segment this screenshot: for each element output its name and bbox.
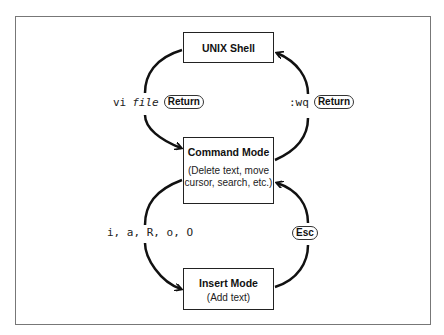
edge-label-insert-commands: i, a, R, o, O — [107, 226, 193, 239]
return-key-icon: Return — [164, 95, 204, 109]
arrow-insert-to-command — [275, 245, 308, 287]
edge-argument: file — [132, 96, 159, 109]
node-subtitle: (Add text) — [184, 292, 273, 304]
node-title: Insert Mode — [184, 277, 273, 289]
return-key-icon: Return — [314, 95, 354, 109]
node-subtitle: (Delete text, move cursor, search, etc.) — [184, 165, 273, 189]
edge-label-esc: Esc — [292, 226, 318, 240]
edge-command: :wq — [289, 96, 309, 109]
esc-key-icon: Esc — [292, 226, 318, 240]
edge-label-wq: :wq Return — [289, 95, 354, 109]
arrow-shell-to-command — [145, 50, 182, 93]
arrow-command-to-insert — [145, 180, 182, 225]
edge-label-vi-file: vi file Return — [113, 95, 204, 109]
node-title: UNIX Shell — [202, 42, 255, 54]
node-command-mode: Command Mode (Delete text, move cursor, … — [183, 137, 274, 204]
node-insert-mode: Insert Mode (Add text) — [183, 268, 274, 310]
node-unix-shell: UNIX Shell — [183, 32, 274, 63]
edge-command: vi — [113, 96, 126, 109]
node-title: Command Mode — [184, 146, 273, 158]
arrow-command-to-shell — [275, 118, 308, 160]
edge-command: i, a, R, o, O — [107, 226, 193, 239]
